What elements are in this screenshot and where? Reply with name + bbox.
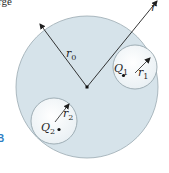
label-r: r [151, 1, 157, 14]
charge-q2 [57, 128, 60, 131]
diagram: rge B r r0 [0, 0, 169, 173]
figure-label: B [0, 133, 4, 144]
charged-sphere-diagram: r r0 Q1 r1 Q2 r2 [0, 0, 169, 173]
caption-fragment: rge [0, 0, 12, 7]
center-point [86, 86, 89, 89]
